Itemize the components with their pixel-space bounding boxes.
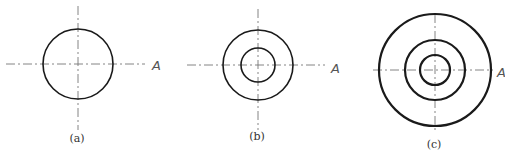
- concentric-circles-diagram: A(a)A(b)A(c): [0, 0, 505, 156]
- figure-caption: (b): [249, 130, 265, 143]
- figure-caption: (c): [427, 138, 442, 151]
- figure-caption: (a): [69, 132, 84, 145]
- figure-c: A(c): [373, 14, 505, 151]
- axis-label: A: [151, 58, 161, 73]
- axis-label: A: [496, 65, 505, 80]
- axis-label: A: [330, 61, 340, 76]
- figure-a: A(a): [6, 6, 161, 145]
- figure-b: A(b): [187, 9, 340, 143]
